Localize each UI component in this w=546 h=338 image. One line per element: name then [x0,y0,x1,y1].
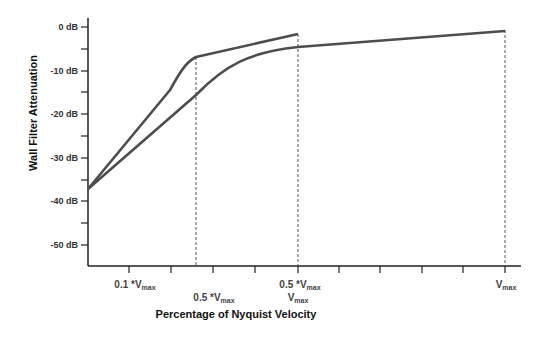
x-tick-label-0.1vmax: 0.1 *Vmax [114,279,155,291]
x-tick-label-0.5vmax-high: 0.5 *Vmax [279,279,320,291]
x-tick-label-vmax-high: Vmax [496,279,517,291]
y-axis-title: Wall Filter Attenuation [27,55,39,171]
curve-high-vmax [88,31,505,189]
y-tick-label: -10 dB [50,66,78,76]
y-tick-label: -40 dB [50,196,78,206]
y-tick-label: -50 dB [50,240,78,250]
reference-lines [196,30,505,266]
y-tick-label: -30 dB [50,153,78,163]
x-ticks [129,266,505,273]
y-ticks [81,27,88,245]
x-axis-title: Percentage of Nyquist Velocity [156,308,318,320]
x-tick-label-vmax-low: Vmax [288,292,309,304]
x-tick-label-0.5vmax-low: 0.5 *Vmax [193,292,234,304]
wall-filter-chart: 0 dB -10 dB -20 dB -30 dB -40 dB -50 dB … [0,0,546,338]
y-tick-label: -20 dB [50,109,78,119]
y-tick-label: 0 dB [58,22,78,32]
curve-low-vmax [88,34,298,189]
